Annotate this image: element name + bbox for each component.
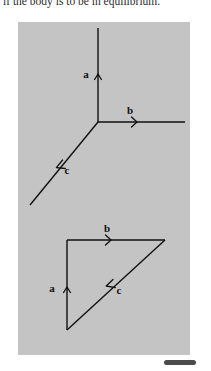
equilibrium-sentence: if the body is to be in equilibrium.	[3, 0, 208, 8]
triangle-vector-c-label: c	[117, 284, 122, 296]
figure-panel: a b c a b c	[18, 22, 190, 355]
triangle-vector-a-label: a	[49, 282, 55, 294]
triangle-vector-b-label: b	[104, 222, 110, 234]
bottom-progress-bar[interactable]	[164, 360, 196, 365]
upper-vector-a-label: a	[83, 68, 89, 80]
upper-vector-b-label: b	[127, 104, 133, 116]
upper-concurrent-diagram: a b c	[30, 28, 185, 205]
vector-diagrams-svg: a b c a b c	[18, 22, 190, 355]
upper-vector-c-label: c	[65, 164, 70, 176]
lower-triangle-diagram: a b c	[49, 222, 165, 330]
clipped-text-line: if the body is to be in equilibrium.	[3, 0, 208, 9]
